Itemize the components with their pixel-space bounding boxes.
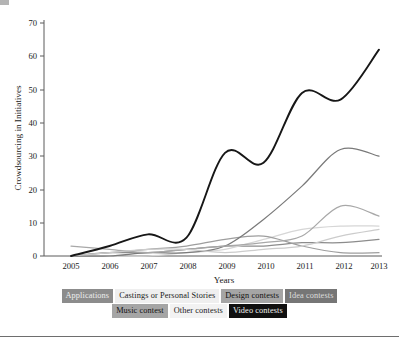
legend-item-music-contest[interactable]: Music contest	[112, 304, 168, 318]
legend-row-1: Applications Castings or Personal Storie…	[0, 289, 399, 303]
chart-legend: Applications Castings or Personal Storie…	[0, 289, 399, 319]
x-axis-title: Years	[214, 275, 235, 285]
page-bottom-rule	[0, 336, 399, 337]
series-line-idea-contests	[71, 148, 379, 256]
y-tick-0: 0	[33, 251, 37, 261]
legend-item-video-contests[interactable]: Video contests	[229, 304, 287, 318]
y-tick-60: 60	[28, 51, 37, 61]
axes-group	[44, 20, 382, 256]
legend-item-design-contests[interactable]: Design contests	[221, 289, 283, 303]
x-tick-2011: 2011	[297, 261, 314, 271]
y-tick-30: 30	[28, 151, 37, 161]
legend-item-castings-or-personal-stories[interactable]: Castings or Personal Stories	[115, 289, 219, 303]
series-line-applications	[71, 239, 379, 256]
legend-item-other-contests[interactable]: Other contests	[170, 304, 227, 318]
y-tick-20: 20	[28, 185, 37, 195]
figure-container: 70 60 50 40 30 20 10 0 2005 2006 2007 20…	[0, 0, 399, 344]
y-tick-40: 40	[28, 118, 37, 128]
line-chart: 70 60 50 40 30 20 10 0 2005 2006 2007 20…	[0, 0, 399, 300]
y-tick-50: 50	[28, 85, 37, 95]
series-layer	[71, 50, 379, 257]
x-tick-2007: 2007	[140, 261, 158, 271]
series-line-music-contest	[71, 205, 379, 252]
legend-item-applications[interactable]: Applications	[62, 289, 114, 303]
y-axis-title: Crowdsourcing in Initiatives	[13, 85, 23, 191]
x-tick-2006: 2006	[101, 261, 119, 271]
x-tick-labels: 2005 2006 2007 2008 2009 2010 2011 2012 …	[62, 261, 387, 271]
y-tick-marks	[40, 23, 44, 256]
x-tick-2008: 2008	[179, 261, 196, 271]
series-line-video-contests	[71, 50, 379, 256]
legend-row-2: Music contest Other contests Video conte…	[0, 304, 399, 318]
y-tick-labels: 70 60 50 40 30 20 10 0	[28, 18, 37, 261]
x-tick-2013: 2013	[370, 261, 387, 271]
legend-item-idea-contests[interactable]: Idea contests	[285, 289, 337, 303]
y-tick-10: 10	[28, 218, 37, 228]
x-tick-2010: 2010	[257, 261, 274, 271]
y-tick-70: 70	[28, 18, 37, 28]
x-tick-2009: 2009	[218, 261, 235, 271]
x-tick-2012: 2012	[335, 261, 352, 271]
x-tick-2005: 2005	[62, 261, 79, 271]
